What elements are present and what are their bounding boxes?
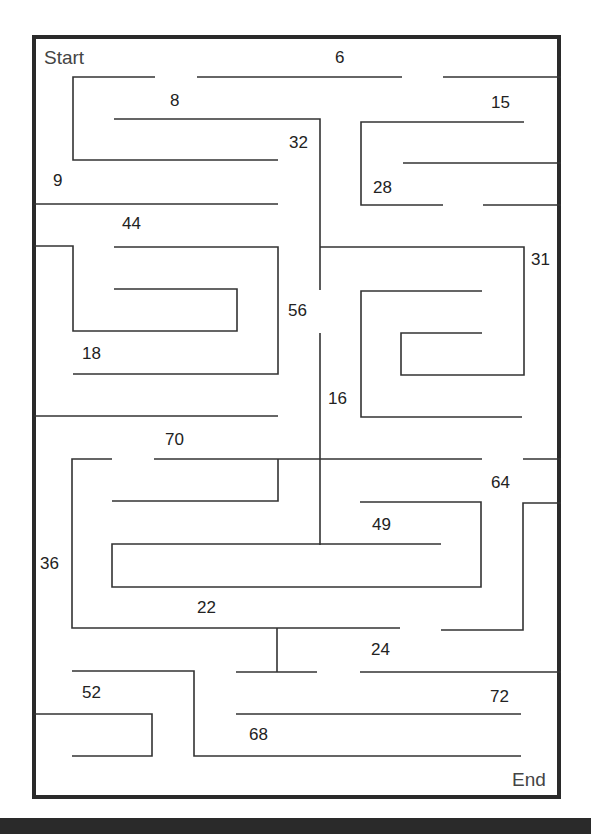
cell-number: 16 <box>328 390 347 407</box>
cell-number: 31 <box>531 251 550 268</box>
cell-number: 44 <box>122 215 141 232</box>
cell-number: 32 <box>289 134 308 151</box>
cell-number: 52 <box>82 684 101 701</box>
cell-number: 64 <box>491 474 510 491</box>
cell-number: 9 <box>53 172 62 189</box>
cell-number: 22 <box>197 599 216 616</box>
cell-number: 36 <box>40 555 59 572</box>
start-label: Start <box>44 48 84 67</box>
cell-number: 68 <box>249 726 268 743</box>
cell-number: 72 <box>490 688 509 705</box>
cell-number: 8 <box>170 92 179 109</box>
maze-walls <box>34 77 561 756</box>
cell-number: 70 <box>165 431 184 448</box>
cell-number: 18 <box>82 345 101 362</box>
cell-number: 28 <box>373 179 392 196</box>
cell-number: 24 <box>371 641 390 658</box>
end-label: End <box>512 770 546 789</box>
cell-number: 6 <box>335 49 344 66</box>
cell-number: 56 <box>288 302 307 319</box>
maze-board <box>0 0 591 834</box>
cell-number: 49 <box>372 516 391 533</box>
cell-number: 15 <box>491 94 510 111</box>
